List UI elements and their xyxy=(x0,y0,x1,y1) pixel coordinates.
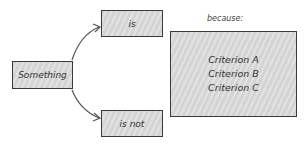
arrow-to-is xyxy=(72,27,99,60)
criterion-item: Criterion B xyxy=(208,67,259,81)
branch-is-not-label: is not xyxy=(120,119,145,129)
criterion-item: Criterion C xyxy=(208,81,259,95)
criterion-item: Criterion A xyxy=(208,53,259,67)
source-node: Something xyxy=(12,61,73,89)
branch-is-node: is xyxy=(101,10,163,37)
reason-heading: because: xyxy=(207,14,243,23)
criteria-box: Criterion A Criterion B Criterion C xyxy=(170,31,297,117)
branch-is-not-node: is not xyxy=(101,110,163,137)
source-node-label: Something xyxy=(18,70,67,80)
branch-is-label: is xyxy=(128,19,135,29)
